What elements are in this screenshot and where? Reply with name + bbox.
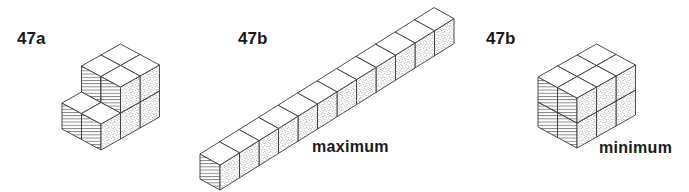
figure-label-47b-maximum: 47b xyxy=(238,30,267,47)
cube-diagrams xyxy=(0,0,689,192)
figure-label-47a: 47a xyxy=(17,30,45,47)
caption-maximum: maximum xyxy=(312,139,389,155)
caption-minimum: minimum xyxy=(599,140,672,156)
figure-47a-cubes xyxy=(62,44,160,150)
figure-label-47b-minimum: 47b xyxy=(486,30,515,47)
figure-47b-minimum-cubes xyxy=(538,44,636,148)
